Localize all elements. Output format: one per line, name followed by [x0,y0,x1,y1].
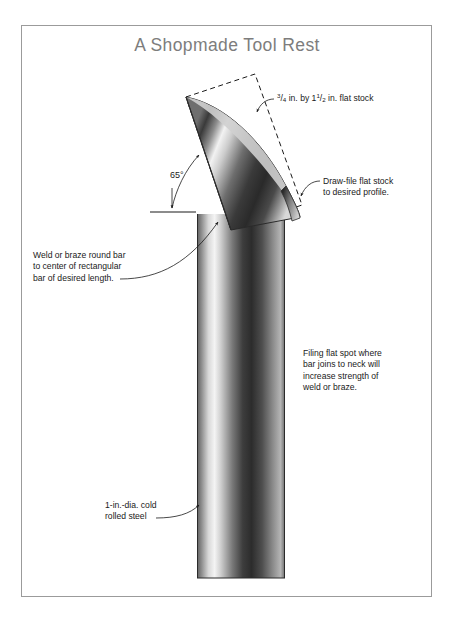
annotation-filing: Filing flat spot where bar joins to neck… [303,348,382,394]
fraction-denominator: 4 [283,96,286,103]
annotation-cold-rolled-line1: 1-in.-dia. cold [105,500,157,511]
illustration-frame [21,25,432,597]
fraction-three-quarters: 3/4 [277,93,286,104]
annotation-flat-stock: 3/4 in. by 11/2 in. flat stock [277,93,373,104]
annotation-draw-file-line1: Draw-file flat stock [323,176,393,187]
fraction-denominator-b: 2 [322,96,325,103]
annotation-flat-stock-tail: in. flat stock [326,93,374,103]
page-title: A Shopmade Tool Rest [0,35,454,56]
annotation-draw-file: Draw-file flat stock to desired profile. [323,176,393,199]
annotation-cold-rolled-line2: rolled steel [105,511,157,522]
illustration-page: A Shopmade Tool Rest [0,0,454,621]
annotation-weld-line1: Weld or braze round bar [33,250,126,261]
annotation-filing-line3: increase strength of [303,371,382,382]
annotation-weld-line2: to center of rectangular [33,261,126,272]
angle-label: 65° [170,170,184,180]
annotation-filing-line1: Filing flat spot where [303,348,382,359]
fraction-one-half: 1/2 [316,93,325,104]
annotation-cold-rolled: 1-in.-dia. cold rolled steel [105,500,157,523]
annotation-flat-stock-mid: in. by 1 [286,93,316,103]
annotation-filing-line2: bar joins to neck will [303,359,382,370]
annotation-filing-line4: weld or braze. [303,382,382,393]
annotation-weld-line3: bar of desired length. [33,273,126,284]
annotation-draw-file-line2: to desired profile. [323,187,393,198]
annotation-weld: Weld or braze round bar to center of rec… [33,250,126,284]
